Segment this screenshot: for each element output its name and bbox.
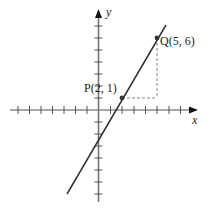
point-q-label: Q(5, 6) bbox=[160, 34, 195, 48]
point-p-label: P(2, 1) bbox=[84, 81, 117, 95]
y-axis-label: y bbox=[105, 5, 112, 19]
x-axis-label: x bbox=[191, 113, 198, 127]
y-axis: y bbox=[95, 5, 113, 202]
point-p bbox=[120, 96, 125, 101]
coordinate-diagram: x y P(2, 1) Q(5, 6) bbox=[0, 0, 209, 218]
dashed-guides bbox=[122, 38, 157, 98]
point-q bbox=[155, 36, 160, 41]
x-axis: x bbox=[10, 106, 198, 127]
y-axis-arrow-icon bbox=[95, 9, 102, 18]
